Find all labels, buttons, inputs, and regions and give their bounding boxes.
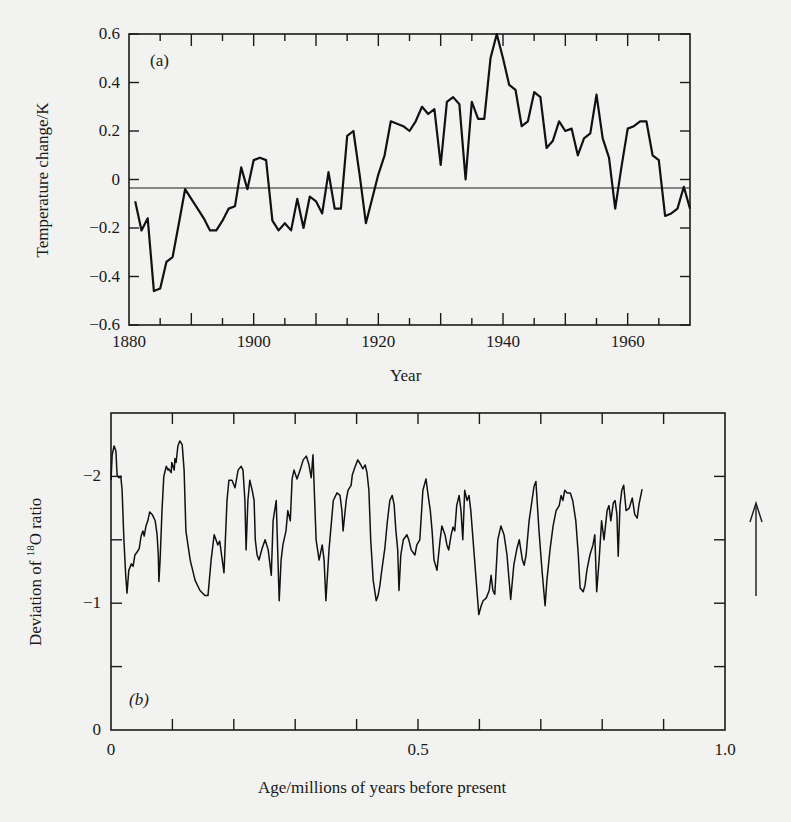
tick-label: 0.4 (99, 74, 120, 91)
panel-a-label: (a) (150, 52, 169, 69)
panel-b-ylabel-text-end: O ratio (26, 498, 45, 546)
panel-b-ylabel-superscript: 18 (24, 545, 36, 556)
panel-b-x-axis-title: Age/millions of years before present (258, 779, 506, 796)
panel-a-temperature-chart (129, 34, 690, 325)
tick-label: 1940 (473, 333, 533, 350)
tick-label: −0.2 (89, 219, 120, 236)
tick-label: 0 (93, 721, 102, 738)
tick-label: −0.4 (89, 268, 120, 285)
tick-label: −1 (83, 594, 101, 611)
tick-label: 1960 (598, 333, 658, 350)
panel-a-y-axis-title: Temperature change/K (33, 100, 53, 260)
panel-a-frame (129, 34, 690, 325)
panel-b-label-letter: b (135, 690, 144, 709)
tick-label: 0.6 (99, 25, 120, 42)
tick-label: 0.2 (99, 122, 120, 139)
tick-label: 1880 (99, 333, 159, 350)
isotope-series-line (111, 441, 642, 615)
panel-b-y-axis-title: Deviation of 18O ratio (24, 482, 46, 662)
tick-label: 0 (112, 171, 121, 188)
panel-b-frame (111, 413, 725, 730)
tick-label: −2 (83, 467, 101, 484)
tick-label: 1920 (348, 333, 408, 350)
panel-a-ticks (129, 34, 690, 325)
up-arrow-icon (750, 503, 762, 596)
panel-b-ticks (111, 413, 725, 730)
tick-label: 0 (81, 741, 141, 758)
panel-b-label: (b) (129, 691, 149, 708)
panel-a-x-axis-title: Year (390, 367, 421, 384)
tick-label: 1900 (224, 333, 284, 350)
tick-label: 1.0 (695, 741, 755, 758)
tick-label: 0.5 (388, 741, 448, 758)
tick-label: −0.6 (89, 316, 120, 333)
panel-b-ylabel-text: Deviation of (26, 556, 45, 646)
temperature-series-line (135, 34, 690, 291)
panel-b-oxygen-isotope-chart (111, 413, 725, 730)
